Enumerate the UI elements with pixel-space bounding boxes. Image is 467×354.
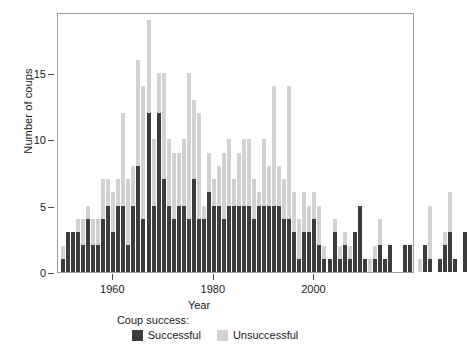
- bar-segment-unsuccessful: [448, 192, 452, 232]
- bar: [453, 259, 457, 272]
- bar-segment-successful: [448, 232, 452, 272]
- legend-title: Coup success:: [0, 314, 430, 326]
- bar-segment-successful: [453, 259, 457, 272]
- legend: Coup success: Successful Unsuccessful: [0, 314, 430, 341]
- x-tick-mark: [213, 274, 214, 280]
- bar: [463, 232, 467, 272]
- bar: [438, 259, 442, 272]
- x-tick-mark: [313, 274, 314, 280]
- x-tick-mark: [112, 274, 113, 280]
- bar-segment-unsuccessful: [443, 232, 447, 245]
- legend-swatch-unsuccessful-icon: [217, 330, 228, 341]
- bar-segment-successful: [443, 245, 447, 272]
- bar: [443, 232, 447, 272]
- bar-segment-successful: [438, 259, 442, 272]
- x-axis-title: Year: [0, 299, 430, 311]
- legend-items: Successful Unsuccessful: [0, 329, 430, 341]
- x-axis-title-text: Year: [188, 299, 210, 311]
- x-tick-label: 1960: [100, 283, 124, 295]
- bar-segment-successful: [463, 232, 467, 272]
- legend-label-successful: Successful: [148, 329, 201, 341]
- x-tick-label: 1980: [201, 283, 225, 295]
- legend-item-unsuccessful[interactable]: Unsuccessful: [217, 329, 298, 341]
- legend-item-successful[interactable]: Successful: [132, 329, 201, 341]
- bar: [448, 192, 452, 272]
- legend-title-text: Coup success:: [117, 314, 189, 326]
- legend-label-unsuccessful: Unsuccessful: [233, 329, 298, 341]
- x-tick-label: 2000: [301, 283, 325, 295]
- legend-swatch-successful-icon: [132, 330, 143, 341]
